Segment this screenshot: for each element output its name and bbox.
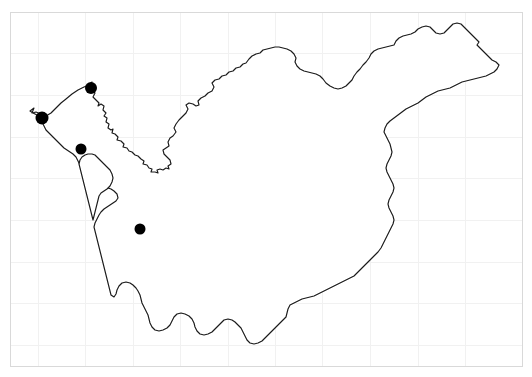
sampling-location-marker [36,112,49,125]
sampling-location-marker [76,144,87,155]
sampling-location-marker [85,82,97,94]
map-figure [0,0,532,377]
sampling-location-marker [135,224,146,235]
map-canvas [0,0,532,377]
